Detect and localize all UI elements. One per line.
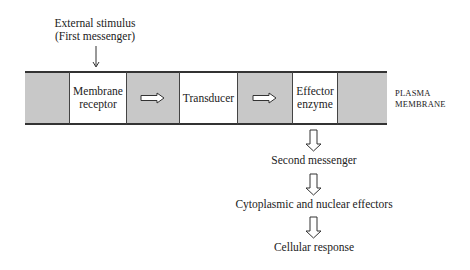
- down-arrow-icon: [305, 173, 323, 197]
- down-arrow-icon: [305, 216, 323, 240]
- receptor-line2: receptor: [73, 98, 123, 111]
- down-arrow-icon: [305, 129, 323, 153]
- transducer-box: Transducer: [179, 71, 238, 125]
- cellular-response-label: Cellular response: [234, 241, 394, 254]
- membrane-receptor-box: Membrane receptor: [69, 71, 127, 125]
- effector-line1: Effector: [296, 85, 333, 98]
- plasma-label-line2: MEMBRANE: [395, 99, 446, 110]
- stimulus-arrow-icon: [91, 46, 101, 68]
- effector-enzyme-box: Effector enzyme: [292, 71, 338, 125]
- transducer-label: Transducer: [183, 92, 234, 105]
- cytoplasmic-nuclear-effectors-label: Cytoplasmic and nuclear effectors: [219, 198, 409, 211]
- right-arrow-icon: [252, 92, 278, 104]
- effector-line2: enzyme: [296, 98, 333, 111]
- stimulus-line1: External stimulus: [40, 17, 150, 30]
- plasma-label-line1: PLASMA: [395, 88, 446, 99]
- right-arrow-icon: [140, 92, 166, 104]
- external-stimulus-label: External stimulus (First messenger): [40, 17, 150, 43]
- plasma-membrane-label: PLASMA MEMBRANE: [395, 88, 446, 110]
- receptor-line1: Membrane: [73, 85, 123, 98]
- stimulus-line2: (First messenger): [40, 30, 150, 43]
- second-messenger-label: Second messenger: [234, 154, 394, 167]
